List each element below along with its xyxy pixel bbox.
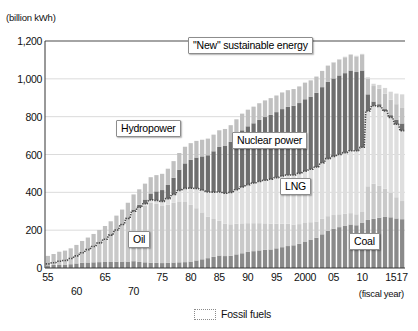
x-axis-tick-95: 95	[271, 271, 282, 283]
x-axis-label: (fiscal year)	[359, 288, 404, 299]
callout-coal: Coal	[349, 233, 380, 250]
x-axis-tick-2000: 2000	[294, 271, 316, 283]
legend: Fossil fuels	[194, 308, 271, 320]
x-axis-tick-65: 65	[99, 271, 110, 283]
x-axis-tick-05: 05	[328, 271, 339, 283]
x-axis-tick-75: 75	[157, 271, 168, 283]
callout-lng: LNG	[280, 178, 311, 195]
x-axis-tick-80: 80	[185, 271, 196, 283]
x-axis-tick-85: 85	[214, 271, 225, 283]
x-axis-tick-55: 55	[42, 271, 53, 283]
x-axis-tick-10: 10	[357, 271, 368, 283]
x-axis-tick-90: 90	[242, 271, 253, 283]
x-axis-tick-17: 17	[397, 271, 408, 283]
chart-container: (billion kWh) 02004006008001,0001,200 55…	[0, 0, 418, 331]
legend-label-fossil-fuels: Fossil fuels	[221, 308, 271, 320]
x-axis-tick-15: 15	[385, 271, 396, 283]
x-axis-tick-60: 60	[71, 285, 82, 297]
callout-new-sustainable-energy: "New" sustainable energy	[188, 37, 313, 54]
callout-oil: Oil	[128, 231, 150, 248]
callout-nuclear-power: Nuclear power	[232, 132, 307, 149]
x-axis-tick-70: 70	[128, 285, 139, 297]
legend-swatch-fossil-fuels	[194, 309, 216, 320]
callout-hydropower: Hydropower	[116, 120, 181, 137]
